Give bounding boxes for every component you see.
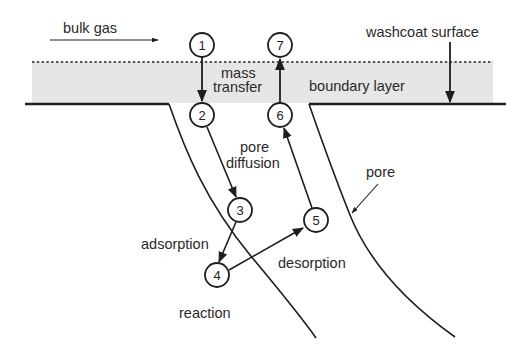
adsorption-label: adsorption <box>141 236 209 252</box>
step-6-number: 6 <box>276 108 283 123</box>
pore-wall-right <box>309 104 455 337</box>
step-1-node: 1 <box>190 33 214 57</box>
pore-diffusion-label-line1: pore <box>240 139 269 155</box>
boundary-layer-label: boundary layer <box>309 78 405 94</box>
step-4-node: 4 <box>205 263 229 287</box>
bulk-gas-label: bulk gas <box>63 20 117 36</box>
step-2-number: 2 <box>198 108 205 123</box>
pore-label: pore <box>366 164 395 180</box>
step-3-node: 3 <box>228 198 252 222</box>
catalyst-pore-diagram: bulk gas washcoat surface mass transfer … <box>0 0 525 358</box>
step-7-number: 7 <box>276 38 283 53</box>
desorption-label: desorption <box>278 255 346 271</box>
step-4-number: 4 <box>213 268 220 283</box>
pore-pointer-arrow <box>352 184 378 213</box>
step-2-node: 2 <box>190 103 214 127</box>
step-6-node: 6 <box>268 103 292 127</box>
arrow-3-to-4 <box>219 222 236 262</box>
reaction-label: reaction <box>179 305 231 321</box>
mass-transfer-label-line2: transfer <box>213 79 262 95</box>
boundary-layer-region <box>32 62 493 103</box>
pore-diffusion-label-line2: diffusion <box>226 155 280 171</box>
step-7-node: 7 <box>268 33 292 57</box>
step-3-number: 3 <box>236 203 243 218</box>
arrow-5-to-6 <box>284 128 312 208</box>
step-1-number: 1 <box>198 38 205 53</box>
step-5-number: 5 <box>312 213 319 228</box>
washcoat-surface-label: washcoat surface <box>365 24 479 40</box>
step-5-node: 5 <box>304 208 328 232</box>
